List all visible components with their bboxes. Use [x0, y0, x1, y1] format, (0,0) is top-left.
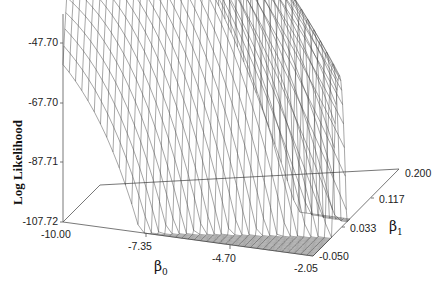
surface-gridline: [70, 0, 320, 250]
z-tick-label: -107.72: [2, 215, 58, 227]
surface-gridline: [70, 0, 320, 249]
z-tick-label: -67.70: [2, 96, 58, 108]
surface-gridline: [144, 0, 181, 233]
surface-gridline: [76, 0, 113, 81]
z-tick-label: -47.70: [2, 36, 58, 48]
surface-gridline: [90, 0, 340, 76]
x-axis-title: β0: [154, 258, 168, 277]
surface-gridline: [207, 0, 244, 242]
y-tick-label: 0.117: [379, 193, 405, 205]
x-tick-label: -10.00: [41, 228, 71, 240]
surface-gridline: [251, 0, 288, 247]
surface-gridline: [77, 0, 327, 242]
surface-gridline: [86, 0, 336, 105]
surface-plot: [0, 0, 440, 286]
y-axis-title: β1: [389, 218, 403, 237]
surface-gridline: [169, 0, 206, 236]
back-left-edge: [63, 185, 100, 222]
x-tick-label: -2.05: [294, 262, 318, 274]
surface-gridline: [66, 13, 316, 254]
y-tick-label: 0.033: [350, 222, 376, 234]
surface-gridline: [75, 0, 325, 244]
y-axis-symbol: β: [389, 218, 397, 234]
y-tick-label: -0.050: [319, 250, 349, 262]
surface-gridline: [84, 0, 334, 148]
log-likelihood-surface: [63, 0, 350, 256]
x-axis-subscript: 0: [162, 267, 168, 277]
surface-gridline: [113, 0, 150, 152]
x-tick-label: -7.35: [128, 240, 152, 252]
surface-gridline: [107, 0, 144, 137]
x-tick-label: -4.70: [212, 252, 236, 264]
x-axis-symbol: β: [154, 258, 162, 274]
y-tick-label: 0.200: [405, 167, 431, 179]
back-edge: [100, 169, 399, 185]
surface-gridline: [85, 0, 335, 124]
surface-gridline: [69, 0, 319, 250]
surface-gridline: [232, 0, 269, 245]
z-axis-title: Log Likelihood: [10, 120, 26, 205]
surface-gridline: [95, 0, 345, 176]
surface-gridline: [157, 0, 194, 235]
surface-gridline: [126, 0, 163, 185]
surface-gridline: [71, 0, 321, 248]
surface-gridline: [88, 0, 125, 101]
surface-gridline: [132, 0, 169, 204]
y-axis-subscript: 1: [397, 227, 403, 237]
surface-gridline: [151, 0, 188, 234]
